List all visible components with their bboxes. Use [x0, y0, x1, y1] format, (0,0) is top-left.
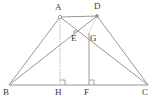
- vertex-label-e: E: [71, 34, 77, 43]
- vertex-label-f: F: [84, 88, 89, 97]
- vertex-label-b: B: [3, 88, 9, 97]
- vertex-marker-d: [96, 15, 99, 18]
- right-angle-at-h-icon: [60, 80, 65, 85]
- right-angle-at-f-icon: [89, 80, 94, 85]
- vertex-label-h: H: [55, 88, 62, 97]
- vertex-marker-a: [58, 15, 61, 18]
- segment-ad-top-side: [60, 16, 97, 17]
- segment-dg-segment: [89, 16, 97, 33]
- vertex-label-d: D: [94, 2, 101, 11]
- geometry-canvas: [0, 0, 159, 106]
- segment-ac-diagonal: [60, 17, 148, 85]
- geometry-figure: A D B C E G H F: [0, 0, 159, 106]
- vertex-label-c: C: [142, 88, 148, 97]
- vertex-label-a: A: [55, 3, 62, 12]
- vertex-label-g: G: [90, 34, 97, 43]
- segment-dc-right-leg: [97, 16, 148, 85]
